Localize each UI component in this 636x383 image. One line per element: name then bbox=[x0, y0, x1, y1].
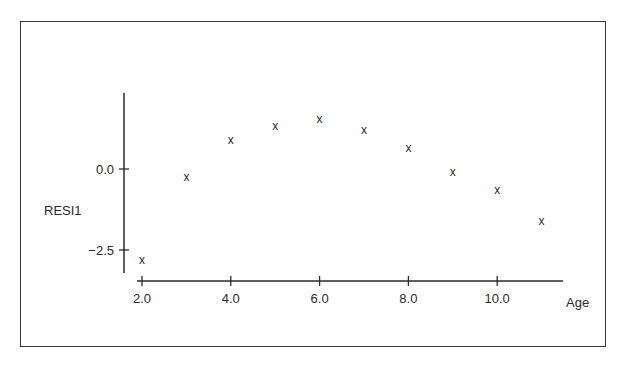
data-point-marker: x bbox=[539, 214, 545, 228]
x-axis: 2.04.06.08.010.0 bbox=[133, 276, 563, 306]
x-tick-label: 8.0 bbox=[399, 291, 417, 306]
data-point-marker: x bbox=[361, 123, 367, 137]
x-tick-label: 4.0 bbox=[222, 291, 240, 306]
data-point-marker: x bbox=[139, 253, 145, 267]
data-point-marker: x bbox=[228, 133, 234, 147]
data-point-marker: x bbox=[183, 170, 189, 184]
y-tick-label: 0.0 bbox=[96, 162, 114, 177]
data-point-marker: x bbox=[317, 112, 323, 126]
scatter-plot: 0.0−2.5 2.04.06.08.010.0 xxxxxxxxxx RESI… bbox=[0, 0, 636, 383]
data-point-marker: x bbox=[405, 141, 411, 155]
data-point-marker: x bbox=[450, 165, 456, 179]
data-points: xxxxxxxxxx bbox=[139, 112, 545, 267]
data-point-marker: x bbox=[272, 119, 278, 133]
y-axis-label: RESI1 bbox=[44, 203, 82, 218]
x-tick-label: 6.0 bbox=[311, 291, 329, 306]
data-point-marker: x bbox=[494, 183, 500, 197]
x-tick-label: 10.0 bbox=[485, 291, 510, 306]
y-axis: 0.0−2.5 bbox=[88, 93, 129, 273]
x-tick-label: 2.0 bbox=[133, 291, 151, 306]
x-axis-label: Age bbox=[566, 295, 589, 310]
y-tick-label: −2.5 bbox=[88, 243, 114, 258]
